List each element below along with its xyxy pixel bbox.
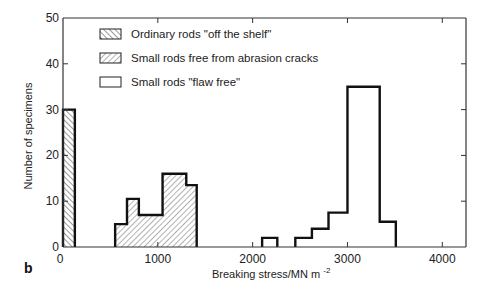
legend-swatch-ordinary [100, 29, 121, 39]
bars-group [63, 87, 396, 247]
x-tick-label: 3000 [334, 252, 361, 266]
bar-flaw-free-4 [347, 87, 379, 247]
legend-label-flaw-free: Small rods "flaw free" [131, 76, 240, 88]
panel-label: b [24, 260, 33, 276]
bar-flaw-free-5 [380, 222, 396, 247]
y-axis-label: Number of specimens [22, 82, 34, 189]
legend-swatch-abrasion-free [100, 53, 121, 63]
bar-abrasion-free-2 [139, 215, 163, 247]
legend-swatch-flaw-free [100, 77, 121, 87]
bar-abrasion-free-1 [127, 199, 139, 247]
y-tick-label: 20 [46, 148, 60, 162]
y-tick-label: 10 [46, 194, 60, 208]
x-tick-label: 4000 [429, 252, 456, 266]
bar-abrasion-free-0 [115, 224, 127, 247]
ticks-group: 0102030405001000200030004000 [46, 11, 466, 266]
x-tick-label: 1000 [144, 252, 171, 266]
bar-ordinary-0 [63, 110, 75, 247]
y-tick-label: 50 [46, 11, 60, 25]
legend-label-abrasion-free: Small rods free from abrasion cracks [131, 52, 319, 64]
y-tick-label: 40 [46, 57, 60, 71]
histogram-chart: 0102030405001000200030004000 Ordinary ro… [0, 0, 491, 296]
x-tick-label: 2000 [239, 252, 266, 266]
legend: Ordinary rods "off the shelf" Small rods… [100, 28, 319, 88]
legend-label-ordinary: Ordinary rods "off the shelf" [131, 28, 271, 40]
bar-abrasion-free-3 [163, 174, 187, 247]
bar-flaw-free-0 [262, 238, 277, 247]
x-axis-label-text: Breaking stress/MN m [212, 268, 320, 280]
bar-flaw-free-3 [329, 213, 348, 247]
y-tick-label: 30 [46, 103, 60, 117]
bar-flaw-free-2 [312, 229, 329, 247]
bar-abrasion-free-4 [186, 185, 196, 247]
x-axis-label-superscript: -2 [323, 266, 331, 275]
bar-flaw-free-1 [295, 238, 312, 247]
x-tick-label: 0 [57, 252, 64, 266]
x-axis-label: Breaking stress/MN m -2 [212, 266, 331, 280]
